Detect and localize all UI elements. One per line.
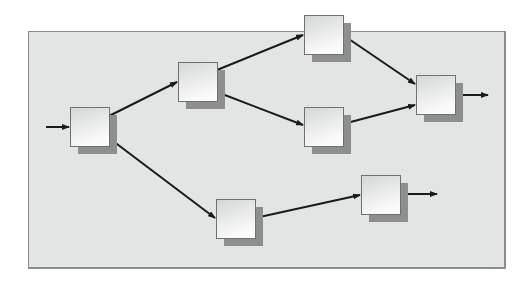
node-box bbox=[305, 16, 344, 55]
node-box bbox=[305, 108, 344, 147]
arrow-a-to-f bbox=[109, 138, 215, 218]
node-box bbox=[179, 63, 218, 102]
flow-network-diagram bbox=[0, 0, 531, 281]
arrow-f-to-g bbox=[255, 195, 360, 218]
node-d bbox=[305, 108, 352, 155]
arrow-c-to-e bbox=[343, 35, 415, 84]
arrow-d-to-e bbox=[343, 105, 415, 124]
node-box bbox=[417, 76, 456, 115]
node-box bbox=[71, 108, 110, 147]
arrow-a-to-b bbox=[109, 82, 177, 116]
node-c bbox=[305, 16, 352, 63]
node-f bbox=[217, 200, 264, 247]
node-box bbox=[362, 176, 401, 215]
arrow-b-to-c bbox=[217, 35, 303, 70]
node-e bbox=[417, 76, 464, 123]
arrow-b-to-d bbox=[217, 92, 303, 125]
node-box bbox=[217, 200, 256, 239]
node-g bbox=[362, 176, 409, 223]
